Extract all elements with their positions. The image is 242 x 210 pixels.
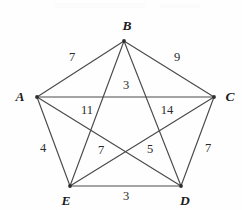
- graph-edge-ea: [37, 97, 70, 186]
- vertex-dot-a: [35, 95, 39, 99]
- vertex-dot-e: [68, 184, 72, 188]
- graph-edge-ce: [70, 97, 214, 186]
- graph-edge-ab: [37, 41, 124, 97]
- graph-edge-cd: [181, 97, 214, 186]
- graph-edge-bd: [124, 41, 181, 186]
- vertex-dot-d: [179, 184, 183, 188]
- graph-edge-be: [70, 41, 124, 186]
- vertex-dot-b: [122, 39, 126, 43]
- graph-canvas: [0, 0, 242, 210]
- vertex-dot-c: [212, 95, 216, 99]
- graph-edge-ad: [37, 97, 181, 186]
- edge-layer: [37, 41, 214, 186]
- graph-edge-bc: [124, 41, 214, 97]
- graph-figure: 797343111475ABCDE: [0, 0, 242, 210]
